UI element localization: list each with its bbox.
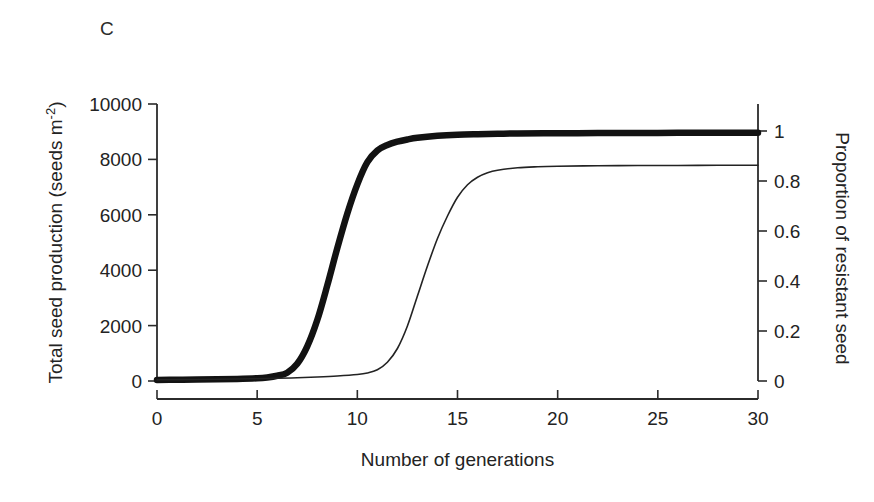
right-axis-tick-label: 1 [774, 121, 785, 142]
right-axis-tick-label: 0 [774, 371, 785, 392]
left-axis-tick-label: 8000 [100, 149, 142, 170]
x-axis-tick-label: 5 [252, 408, 263, 429]
chart-canvas: 0200040006000800010000 00.20.40.60.81 05… [0, 0, 874, 502]
x-axis-tick-label: 0 [152, 408, 163, 429]
left-axis-tick-label: 2000 [100, 316, 142, 337]
figure-panel-c: C 0200040006000800010000 00.20.40.60.81 … [0, 0, 874, 502]
x-axis-title: Number of generations [361, 449, 554, 470]
right-axis-title: Proportion of resistant seed [832, 132, 853, 364]
series-line-thin [157, 165, 758, 380]
right-axis: 00.20.40.60.81 [758, 104, 801, 392]
right-axis-tick-label: 0.8 [774, 171, 800, 192]
x-axis: 051015202530 [152, 390, 769, 429]
x-axis-tick-label: 15 [447, 408, 468, 429]
right-axis-tick-label: 0.2 [774, 321, 800, 342]
x-axis-tick-label: 30 [747, 408, 768, 429]
left-axis-title: Total seed production (seeds m-2) [43, 102, 66, 384]
x-axis-tick-label: 10 [347, 408, 368, 429]
right-axis-tick-label: 0.4 [774, 271, 801, 292]
x-axis-tick-label: 25 [647, 408, 668, 429]
right-axis-tick-label: 0.6 [774, 221, 800, 242]
series-line-thick [157, 133, 758, 380]
left-axis-tick-label: 0 [131, 371, 142, 392]
data-series-group [157, 133, 758, 380]
left-axis-tick-label: 6000 [100, 205, 142, 226]
left-axis-tick-label: 10000 [89, 94, 142, 115]
x-axis-tick-label: 20 [547, 408, 568, 429]
left-axis-tick-label: 4000 [100, 260, 142, 281]
left-axis: 0200040006000800010000 [89, 94, 157, 392]
